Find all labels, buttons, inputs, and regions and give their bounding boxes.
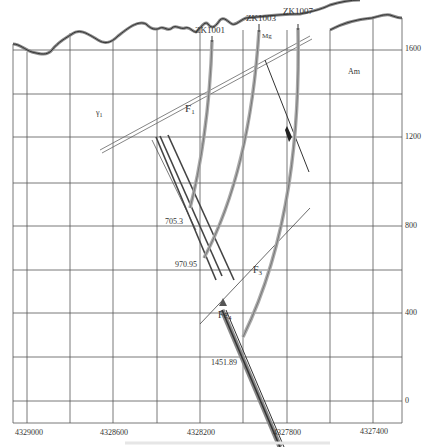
label-depth-1451: 1451.89 (211, 358, 237, 367)
label-gamma: γ1 (95, 108, 103, 118)
label-mg: Mg (262, 32, 272, 40)
svg-text:400: 400 (405, 308, 417, 317)
label-depth-705: 705.3 (165, 217, 183, 226)
label-zk1003: ZK1003 (246, 13, 276, 23)
x-axis-labels: 4329000 4328600 4328200 4327800 4327400 (15, 427, 388, 437)
svg-text:1200: 1200 (405, 132, 421, 141)
fe-marker-icon (219, 298, 227, 306)
svg-text:4327400: 4327400 (360, 427, 388, 436)
fault-f1 (100, 36, 312, 153)
label-am: Am (348, 67, 361, 76)
svg-text:0: 0 (405, 396, 409, 405)
svg-text:4329000: 4329000 (15, 428, 43, 437)
cross-section-diagram: ZK1001 ZK1003 ZK1007 Mg Am γ1 F1 F3 Fe4 … (0, 0, 428, 447)
label-zk1001: ZK1001 (195, 25, 225, 35)
label-depth-970: 970.95 (175, 260, 197, 269)
label-fault-f1: F1 (185, 102, 195, 116)
ore-body-lower (222, 310, 284, 447)
label-zk1007: ZK1007 (283, 6, 313, 16)
label-fault-f3: F3 (253, 264, 263, 277)
svg-text:800: 800 (405, 221, 417, 230)
svg-text:4328200: 4328200 (187, 428, 215, 437)
svg-text:4328600: 4328600 (100, 428, 128, 437)
y-axis-labels: 1600 1200 800 400 0 (405, 44, 421, 405)
svg-text:4327800: 4327800 (273, 428, 301, 437)
ore-body-upper (156, 135, 234, 280)
svg-text:1600: 1600 (405, 44, 421, 53)
topography-right (330, 15, 402, 30)
